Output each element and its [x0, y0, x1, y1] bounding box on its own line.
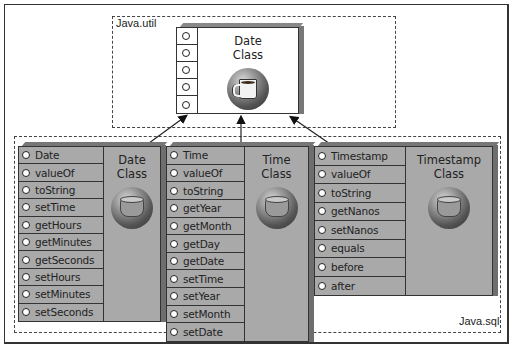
- method-item: getHours: [19, 217, 103, 234]
- method-bullet-icon: [170, 187, 178, 195]
- method-bullet-icon: [318, 170, 326, 178]
- class-title-line2: Class: [104, 167, 160, 181]
- method-name: Timestamp: [331, 150, 388, 162]
- method-bullet-icon: [170, 257, 178, 265]
- method-name: Time: [183, 149, 208, 161]
- class-title-line1: Timestamp: [406, 153, 492, 167]
- method-name: setNanos: [331, 224, 378, 236]
- method-item: toString: [19, 182, 103, 199]
- method-bullet-icon: [170, 310, 178, 318]
- method-item: setYear: [167, 288, 244, 306]
- method-bullet-icon: [170, 222, 178, 230]
- method-name: after: [331, 280, 355, 292]
- method-name: setMinutes: [35, 288, 90, 300]
- method-item: equals: [315, 240, 405, 259]
- method-item: setMinutes: [19, 286, 103, 303]
- class-title-line1: Date: [104, 153, 160, 167]
- method-name: getDate: [183, 255, 224, 267]
- method-name: getHours: [35, 219, 81, 231]
- method-item: setHours: [19, 269, 103, 286]
- method-item: getDate: [167, 253, 244, 271]
- method-name: getMinutes: [35, 236, 92, 248]
- method-bullet-icon: [170, 292, 178, 300]
- method-item: getMonth: [167, 218, 244, 236]
- class-title: Date Class: [104, 147, 160, 181]
- method-bullet-icon: [22, 273, 30, 281]
- method-item: Timestamp: [315, 147, 405, 166]
- class-title-line2: Class: [245, 167, 308, 181]
- method-bullet-icon: [170, 204, 178, 212]
- method-item: getYear: [167, 200, 244, 218]
- method-name: toString: [331, 187, 371, 199]
- method-item: Time: [167, 147, 244, 165]
- method-name: toString: [183, 185, 223, 197]
- method-item: valueOf: [167, 165, 244, 183]
- method-item: setTime: [19, 199, 103, 216]
- method-item: after: [315, 277, 405, 295]
- method-name: getDay: [183, 238, 220, 250]
- method-name: setDate: [183, 326, 223, 338]
- method-name: Date: [35, 149, 59, 161]
- method-name: setSeconds: [35, 306, 93, 318]
- method-name: setMonth: [183, 308, 230, 320]
- method-bullet-icon: [318, 263, 326, 271]
- method-name: toString: [35, 184, 75, 196]
- cylinder-icon: [111, 187, 153, 229]
- method-bullet-icon: [22, 290, 30, 298]
- method-bullet-icon: [318, 189, 326, 197]
- method-item: setSeconds: [19, 304, 103, 321]
- method-bullet-icon: [22, 238, 30, 246]
- method-name: valueOf: [331, 168, 370, 180]
- method-item: toString: [167, 182, 244, 200]
- method-bullet-icon: [318, 226, 326, 234]
- method-bullet-icon: [170, 328, 178, 336]
- method-name: equals: [331, 242, 364, 254]
- method-name: getNanos: [331, 205, 379, 217]
- method-item: before: [315, 258, 405, 277]
- class-sql-time: Time valueOf toString getYear getMonth g…: [166, 142, 314, 342]
- class-title: Timestamp Class: [406, 147, 492, 181]
- method-bullet-icon: [170, 151, 178, 159]
- method-bullet-icon: [318, 282, 326, 290]
- method-item: setNanos: [315, 221, 405, 240]
- method-bullet-icon: [22, 308, 30, 316]
- method-bullet-icon: [22, 256, 30, 264]
- method-item: getDay: [167, 235, 244, 253]
- class-title: Time Class: [245, 147, 308, 181]
- method-bullet-icon: [22, 221, 30, 229]
- method-bullet-icon: [170, 240, 178, 248]
- method-bullet-icon: [318, 207, 326, 215]
- method-name: getSeconds: [35, 254, 94, 266]
- method-name: setTime: [35, 201, 75, 213]
- method-bullet-icon: [22, 203, 30, 211]
- method-item: toString: [315, 184, 405, 203]
- method-name: getMonth: [183, 220, 232, 232]
- method-item: setDate: [167, 323, 244, 341]
- method-item: getSeconds: [19, 251, 103, 268]
- method-name: before: [331, 261, 364, 273]
- method-item: valueOf: [19, 164, 103, 181]
- method-bullet-icon: [22, 169, 30, 177]
- method-name: setHours: [35, 271, 80, 283]
- class-sql-date: Date valueOf toString setTime getHours g…: [18, 142, 166, 322]
- method-item: Date: [19, 147, 103, 164]
- method-item: valueOf: [315, 166, 405, 185]
- method-name: getYear: [183, 202, 221, 214]
- method-item: getNanos: [315, 203, 405, 222]
- method-item: setMonth: [167, 306, 244, 324]
- method-name: valueOf: [35, 167, 74, 179]
- method-item: getMinutes: [19, 234, 103, 251]
- class-title-line2: Class: [406, 167, 492, 181]
- method-name: valueOf: [183, 167, 222, 179]
- method-bullet-icon: [318, 244, 326, 252]
- method-bullet-icon: [170, 169, 178, 177]
- cylinder-icon: [428, 187, 470, 229]
- class-sql-timestamp: Timestamp valueOf toString getNanos setN…: [314, 142, 498, 296]
- class-title-line1: Time: [245, 153, 308, 167]
- method-bullet-icon: [318, 152, 326, 160]
- method-bullet-icon: [170, 275, 178, 283]
- cylinder-icon: [256, 187, 298, 229]
- method-bullet-icon: [22, 151, 30, 159]
- method-item: setTime: [167, 270, 244, 288]
- method-bullet-icon: [22, 186, 30, 194]
